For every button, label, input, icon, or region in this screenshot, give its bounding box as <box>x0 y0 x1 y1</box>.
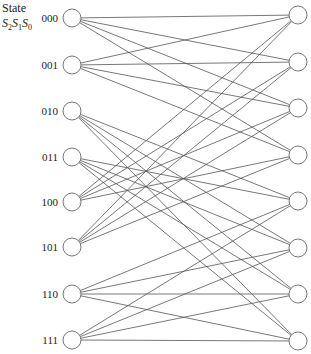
right-state-node-000 <box>289 6 307 24</box>
state-label-101: 101 <box>42 241 59 253</box>
left-state-node-111 <box>63 331 81 349</box>
left-state-node-100 <box>63 193 81 211</box>
right-state-node-101 <box>289 239 307 257</box>
state-label-001: 001 <box>42 59 59 71</box>
left-state-node-000 <box>63 9 81 27</box>
state-label-111: 111 <box>42 334 58 346</box>
left-state-node-110 <box>63 285 81 303</box>
transition-edge-101-to-011 <box>80 158 289 243</box>
trellis-nodes <box>63 6 307 350</box>
transition-edge-111-to-111 <box>81 340 289 341</box>
transition-edge-101-to-001 <box>79 68 291 242</box>
transition-edge-011-to-111 <box>79 163 291 336</box>
transition-edge-100-to-000 <box>79 21 291 197</box>
transition-edge-100-to-011 <box>81 157 289 200</box>
left-state-node-101 <box>63 238 81 256</box>
left-state-node-010 <box>63 102 81 120</box>
transition-edge-110-to-100 <box>80 204 289 290</box>
right-state-node-111 <box>289 332 307 350</box>
transition-edge-110-to-101 <box>81 250 289 292</box>
left-state-node-011 <box>63 148 81 166</box>
state-label-110: 110 <box>42 288 59 300</box>
transition-edge-011-to-101 <box>80 160 289 244</box>
state-label-100: 100 <box>42 196 59 208</box>
state-labels: 000001010011100101110111 <box>42 12 59 346</box>
transition-edge-101-to-000 <box>78 21 291 240</box>
right-state-node-010 <box>289 99 307 117</box>
right-state-node-001 <box>289 53 307 71</box>
right-state-node-011 <box>289 146 307 164</box>
transition-edge-011-to-100 <box>81 159 289 200</box>
state-label-010: 010 <box>42 105 59 117</box>
transition-edge-010-to-101 <box>80 116 291 244</box>
state-label-000: 000 <box>42 12 59 24</box>
right-state-node-110 <box>289 285 307 303</box>
trellis-diagram: 000001010011100101110111 <box>0 0 311 354</box>
right-state-node-100 <box>289 192 307 210</box>
transition-edge-001-to-001 <box>81 62 289 65</box>
transition-edge-001-to-011 <box>80 68 289 151</box>
trellis-edges <box>78 15 291 341</box>
state-label-011: 011 <box>42 151 58 163</box>
transition-edge-000-to-000 <box>81 15 289 18</box>
transition-edge-000-to-010 <box>80 21 289 104</box>
left-state-node-001 <box>63 56 81 74</box>
